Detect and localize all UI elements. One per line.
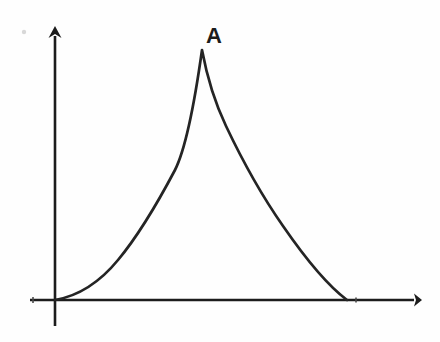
x-axis-arrow-icon	[414, 294, 422, 307]
plot-svg	[0, 0, 440, 342]
scan-speck	[22, 30, 26, 34]
peaked-curve-path	[55, 50, 347, 300]
peak-label-a: A	[206, 25, 222, 47]
figure-canvas: A	[0, 0, 440, 342]
